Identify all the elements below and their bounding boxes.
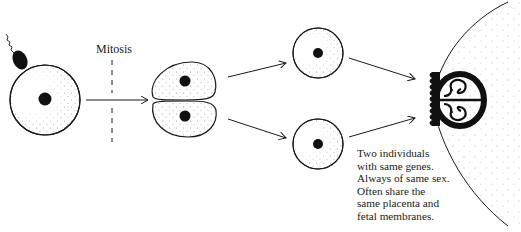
bottom-cell-nucleus xyxy=(313,139,323,149)
top-nucleus xyxy=(180,76,191,87)
sperm-tail xyxy=(6,34,15,55)
caption-line: Always of same sex. xyxy=(357,172,477,185)
arrow-to-bottom-cell xyxy=(228,119,286,138)
separated-cell-bottom xyxy=(293,119,343,169)
caption-line: Often share the xyxy=(357,185,477,198)
separated-cell-top xyxy=(293,28,343,78)
mitosis-label: Mitosis xyxy=(96,42,132,57)
caption-line: same placenta and xyxy=(357,197,477,210)
fertilized-egg xyxy=(6,34,80,135)
twins-caption: Two individuals with same genes. Always … xyxy=(357,147,477,223)
caption-line: Two individuals xyxy=(357,147,477,160)
caption-line: fetal membranes. xyxy=(357,210,477,223)
top-cell-nucleus xyxy=(313,48,323,58)
egg-nucleus xyxy=(39,93,52,106)
caption-line: with same genes. xyxy=(357,160,477,173)
arrow-to-embryo-top xyxy=(349,58,415,79)
bottom-nucleus xyxy=(180,111,191,122)
arrow-to-top-cell xyxy=(228,63,286,77)
two-cell-stage xyxy=(152,62,216,137)
arrow-to-embryo-bottom xyxy=(349,118,415,137)
